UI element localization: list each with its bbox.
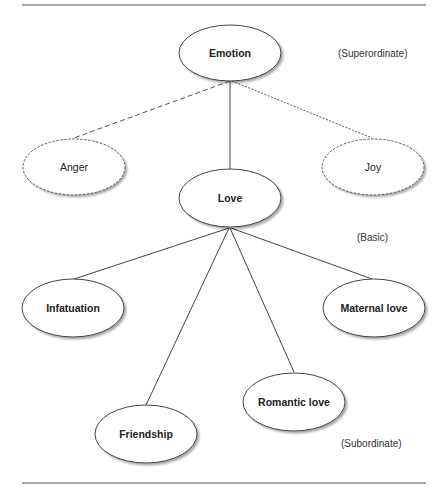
node-infatuation: Infatuation (22, 279, 124, 337)
edge-love-maternal (231, 228, 372, 279)
node-infatuation-label: Infatuation (46, 302, 100, 314)
node-anger: Anger (23, 139, 125, 195)
edge-emotion-anger (74, 81, 230, 138)
level-basic-label: (Basic) (357, 232, 388, 243)
edge-emotion-joy (232, 81, 372, 138)
edge-love-romantic (230, 228, 294, 372)
node-love: Love (179, 169, 281, 227)
node-love-label: Love (218, 192, 243, 204)
node-joy-label: Joy (365, 161, 382, 173)
edge-love-friendship (146, 228, 229, 405)
node-romantic-love-label: Romantic love (258, 396, 330, 408)
node-emotion-label: Emotion (209, 47, 251, 59)
node-anger-label: Anger (60, 161, 89, 173)
node-maternal-love: Maternal love (323, 279, 425, 337)
node-friendship: Friendship (95, 405, 197, 463)
level-subordinate-label: (Subordinate) (341, 438, 402, 449)
level-superordinate-label: (Superordinate) (338, 48, 407, 59)
node-joy: Joy (322, 139, 424, 195)
edge-love-infatuation (74, 228, 229, 279)
node-friendship-label: Friendship (119, 428, 173, 440)
node-romantic-love: Romantic love (243, 373, 345, 431)
node-emotion: Emotion (179, 25, 281, 81)
hierarchy-diagram: Emotion (Superordinate) Anger Joy Love (… (0, 0, 448, 491)
node-maternal-love-label: Maternal love (340, 302, 407, 314)
